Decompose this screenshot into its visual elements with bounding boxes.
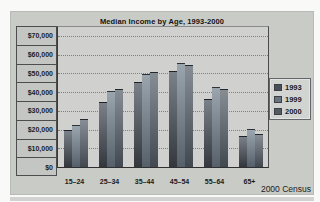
bar-1993-65+ <box>239 136 247 167</box>
y-axis-tick-label: $20,000 <box>17 121 56 140</box>
chart-title: Median Income by Age, 1993-2000 <box>57 17 267 26</box>
bar-1999-25–34 <box>107 91 115 167</box>
legend-label: 1999 <box>285 95 302 104</box>
bar-1993-35–44 <box>134 82 142 167</box>
x-axis-label-45–54: 45–54 <box>162 178 197 188</box>
y-axis: $70,000$60,000$50,000$40,000$30,000$20,0… <box>16 26 57 176</box>
x-axis-label-25–34: 25–34 <box>92 178 127 188</box>
x-axis-label-35–44: 35–44 <box>127 178 162 188</box>
y-axis-tick-label: $30,000 <box>17 102 56 121</box>
bar-1993-55–64 <box>204 99 212 167</box>
y-axis-tick-label: $60,000 <box>17 46 56 65</box>
gridline <box>58 73 268 74</box>
legend-swatch-icon <box>274 108 282 115</box>
legend-label: 1993 <box>285 83 302 92</box>
bar-1999-65+ <box>247 129 255 167</box>
bar-1999-55–64 <box>212 87 220 167</box>
legend-item-1999: 1999 <box>274 95 307 104</box>
gridline <box>58 92 268 93</box>
legend-item-1993: 1993 <box>274 83 307 92</box>
bar-1999-45–54 <box>177 63 185 167</box>
y-axis-tick-label: $40,000 <box>17 83 56 102</box>
y-axis-tick-label: $70,000 <box>17 27 56 46</box>
y-axis-tick-label: $0 <box>17 158 56 177</box>
chart-frame: Median Income by Age, 1993-2000 $70,000$… <box>10 11 314 195</box>
bar-2000-45–54 <box>185 65 193 167</box>
x-axis-label-55–64: 55–64 <box>197 178 232 188</box>
legend-swatch-icon <box>274 84 282 91</box>
bar-1993-45–54 <box>169 71 177 167</box>
bar-1999-35–44 <box>142 74 150 167</box>
gridline <box>58 148 268 149</box>
x-axis-label-65+: 65+ <box>232 178 267 188</box>
legend-swatch-icon <box>274 96 282 103</box>
y-axis-tick-label: $50,000 <box>17 65 56 84</box>
bar-2000-55–64 <box>220 89 228 167</box>
legend-label: 2000 <box>285 107 302 116</box>
gridline <box>58 111 268 112</box>
plot-area <box>57 26 269 168</box>
bar-2000-65+ <box>255 134 263 167</box>
bar-2000-35–44 <box>150 72 158 167</box>
legend-item-2000: 2000 <box>274 107 307 116</box>
gridline <box>58 55 268 56</box>
bar-2000-15–24 <box>80 119 88 167</box>
census-footnote: 2000 Census <box>261 184 311 194</box>
bar-1993-25–34 <box>99 102 107 167</box>
gridline <box>58 130 268 131</box>
gridline <box>58 36 268 37</box>
y-axis-tick-label: $10,000 <box>17 140 56 159</box>
legend: 199319992000 <box>269 78 311 120</box>
page-bottom-strip <box>10 197 314 201</box>
bar-1999-15–24 <box>72 125 80 167</box>
bar-2000-25–34 <box>115 89 123 167</box>
x-axis-label-15–24: 15–24 <box>57 178 92 188</box>
bar-1993-15–24 <box>64 130 72 167</box>
